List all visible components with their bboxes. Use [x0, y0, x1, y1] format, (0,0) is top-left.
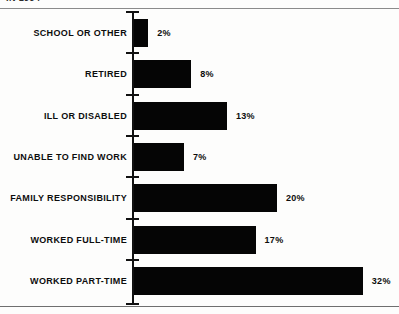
- bar-value-label: 7%: [193, 152, 207, 162]
- bar-value-label: 32%: [372, 276, 391, 286]
- bar: [134, 102, 227, 130]
- clipped-heading-text: IN 1994: [6, 0, 40, 3]
- bar-row: FAMILY RESPONSIBILITY20%: [0, 179, 399, 217]
- bar-value-label: 13%: [236, 111, 255, 121]
- bottom-divider-rule: [0, 306, 399, 307]
- bar-category-label: WORKED FULL-TIME: [0, 235, 127, 245]
- bar-category-label: ILL OR DISABLED: [0, 111, 127, 121]
- bar-row: UNABLE TO FIND WORK7%: [0, 138, 399, 176]
- bar-value-label: 2%: [157, 28, 171, 38]
- plot-area: SCHOOL OR OTHER2%RETIRED8%ILL OR DISABLE…: [0, 10, 399, 306]
- y-axis-tick: [126, 94, 139, 96]
- bar-category-label: FAMILY RESPONSIBILITY: [0, 193, 127, 203]
- y-axis-tick: [126, 176, 139, 178]
- y-axis-tick: [126, 52, 139, 54]
- y-axis-tick-top: [126, 11, 139, 13]
- bar-row: WORKED FULL-TIME17%: [0, 221, 399, 259]
- bar-value-label: 8%: [200, 69, 214, 79]
- y-axis-tick: [126, 259, 139, 261]
- bar: [134, 60, 191, 88]
- bar: [134, 267, 363, 295]
- bar-row: RETIRED8%: [0, 55, 399, 93]
- y-axis-tick: [126, 218, 139, 220]
- bar: [134, 19, 148, 47]
- bar-value-label: 17%: [265, 235, 284, 245]
- bar-row: ILL OR DISABLED13%: [0, 97, 399, 135]
- y-axis-tick: [126, 135, 139, 137]
- bar: [134, 226, 256, 254]
- bar-category-label: SCHOOL OR OTHER: [0, 28, 127, 38]
- bar-chart-figure: IN 1994 SCHOOL OR OTHER2%RETIRED8%ILL OR…: [0, 0, 399, 314]
- bar-category-label: UNABLE TO FIND WORK: [0, 152, 127, 162]
- bar: [134, 184, 277, 212]
- bar-category-label: RETIRED: [0, 69, 127, 79]
- bar: [134, 143, 184, 171]
- y-axis-tick-bottom: [126, 303, 139, 305]
- bar-value-label: 20%: [286, 193, 305, 203]
- top-divider-rule: [0, 8, 399, 9]
- bar-row: WORKED PART-TIME32%: [0, 262, 399, 300]
- bar-row: SCHOOL OR OTHER2%: [0, 14, 399, 52]
- bar-category-label: WORKED PART-TIME: [0, 276, 127, 286]
